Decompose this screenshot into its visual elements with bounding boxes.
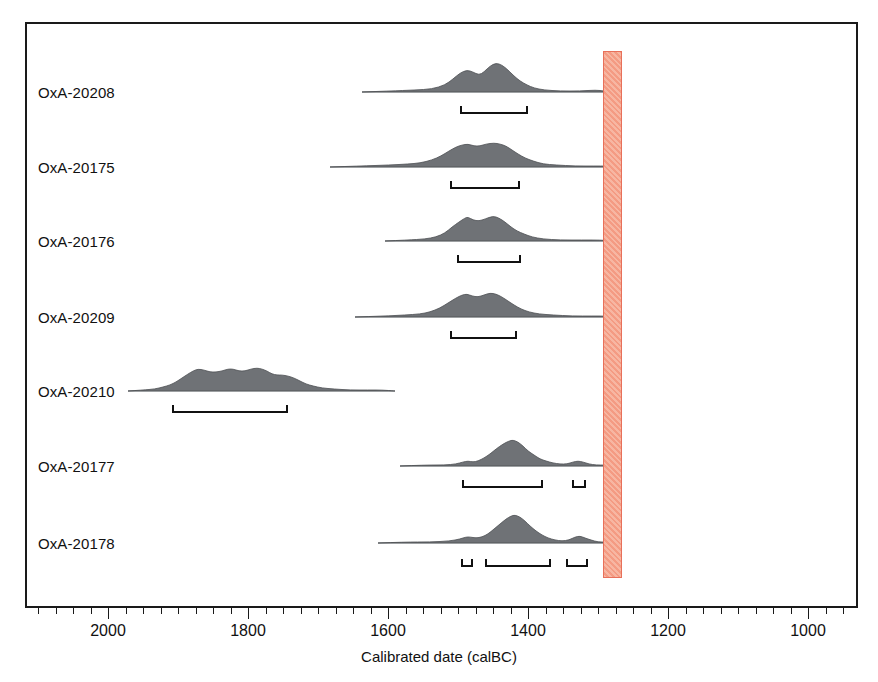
axis-minor-tick [38, 608, 39, 614]
sample-label-oxa-20177: OxA-20177 [38, 458, 115, 475]
axis-minor-tick [406, 608, 407, 614]
axis-minor-tick [493, 608, 494, 614]
axis-tick-label: 1000 [790, 622, 826, 640]
axis-minor-tick [231, 608, 232, 614]
axis-minor-tick [56, 608, 57, 614]
range-bracket [172, 405, 288, 413]
range-bracket [450, 331, 517, 339]
axis-minor-tick [441, 608, 442, 614]
axis-major-tick [668, 608, 669, 619]
range-bracket [462, 480, 543, 488]
sample-label-oxa-20178: OxA-20178 [38, 535, 115, 552]
range-bracket [485, 559, 551, 567]
axis-major-tick [108, 608, 109, 619]
sample-label-oxa-20209: OxA-20209 [38, 309, 115, 326]
axis-minor-tick [213, 608, 214, 614]
axis-minor-tick [161, 608, 162, 614]
axis-minor-tick [738, 608, 739, 614]
axis-minor-tick [143, 608, 144, 614]
axis-major-tick [388, 608, 389, 619]
axis-tick-label: 1800 [230, 622, 266, 640]
axis-minor-tick [756, 608, 757, 614]
sample-label-oxa-20208: OxA-20208 [38, 84, 115, 101]
probability-distribution [128, 366, 395, 392]
sample-label-oxa-20175: OxA-20175 [38, 159, 115, 176]
range-bracket [450, 181, 520, 189]
probability-distribution [385, 214, 615, 242]
probability-distribution [400, 438, 613, 467]
axis-minor-tick [791, 608, 792, 614]
range-bracket [461, 559, 473, 567]
x-axis: 200018001600140012001000 [25, 608, 858, 609]
axis-minor-tick [336, 608, 337, 614]
range-bracket [566, 559, 588, 567]
axis-minor-tick [598, 608, 599, 614]
axis-minor-tick [633, 608, 634, 614]
axis-minor-tick [196, 608, 197, 614]
axis-minor-tick [843, 608, 844, 614]
axis-minor-tick [721, 608, 722, 614]
axis-minor-tick [283, 608, 284, 614]
axis-minor-tick [476, 608, 477, 614]
axis-minor-tick [371, 608, 372, 614]
axis-minor-tick [581, 608, 582, 614]
axis-minor-tick [773, 608, 774, 614]
axis-minor-tick [266, 608, 267, 614]
figure-canvas: OxA-20208OxA-20175OxA-20176OxA-20209OxA-… [0, 0, 878, 682]
axis-minor-tick [126, 608, 127, 614]
axis-minor-tick [73, 608, 74, 614]
sample-label-oxa-20176: OxA-20176 [38, 233, 115, 250]
axis-minor-tick [178, 608, 179, 614]
axis-minor-tick [826, 608, 827, 614]
range-bracket [460, 106, 528, 114]
axis-major-tick [528, 608, 529, 619]
range-bracket [457, 255, 521, 263]
axis-minor-tick [458, 608, 459, 614]
axis-minor-tick [353, 608, 354, 614]
axis-minor-tick [651, 608, 652, 614]
axis-major-tick [808, 608, 809, 619]
probability-distribution [355, 291, 613, 318]
axis-minor-tick [318, 608, 319, 614]
axis-tick-label: 1600 [370, 622, 406, 640]
probability-distribution [378, 513, 614, 544]
probability-distribution [330, 141, 614, 168]
highlight-band [603, 51, 622, 578]
range-bracket [572, 480, 586, 488]
axis-minor-tick [563, 608, 564, 614]
axis-minor-tick [423, 608, 424, 614]
axis-minor-tick [616, 608, 617, 614]
axis-tick-label: 1200 [650, 622, 686, 640]
probability-distribution [362, 61, 612, 93]
axis-tick-label: 1400 [510, 622, 546, 640]
axis-major-tick [248, 608, 249, 619]
axis-minor-tick [91, 608, 92, 614]
axis-minor-tick [703, 608, 704, 614]
axis-minor-tick [686, 608, 687, 614]
axis-tick-label: 2000 [90, 622, 126, 640]
x-axis-title: Calibrated date (calBC) [0, 648, 878, 665]
sample-label-oxa-20210: OxA-20210 [38, 383, 115, 400]
axis-minor-tick [546, 608, 547, 614]
axis-minor-tick [511, 608, 512, 614]
axis-minor-tick [301, 608, 302, 614]
